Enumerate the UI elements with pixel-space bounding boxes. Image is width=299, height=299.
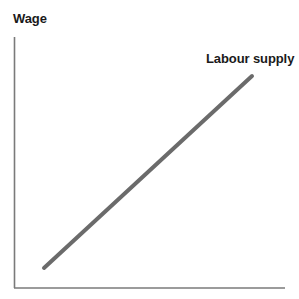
chart-canvas — [0, 0, 299, 299]
y-axis-label: Wage — [13, 12, 47, 26]
labour-supply-series-label: Labour supply — [206, 52, 294, 66]
labour-supply-curve — [44, 76, 252, 268]
labour-supply-chart: Wage Labour supply — [0, 0, 299, 299]
